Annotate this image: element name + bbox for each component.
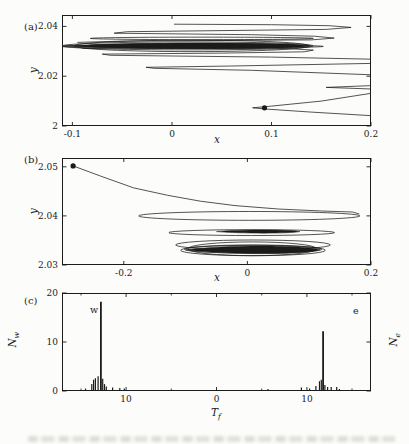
- west-annotation: w: [90, 305, 98, 315]
- tick-label: 2.03: [38, 260, 58, 270]
- tick-label: 10: [301, 394, 313, 404]
- panel-a-plot-area: [61, 24, 378, 116]
- tf-label-main: T: [211, 406, 218, 418]
- tick-label: 2: [52, 121, 58, 131]
- panel-c-xlabel: Tf: [211, 407, 221, 421]
- tick-label: 20: [47, 288, 59, 298]
- tick-label: 0: [52, 386, 58, 396]
- nw-label-main: N: [6, 338, 18, 347]
- ne-label-main: N: [387, 337, 399, 346]
- panel-a-box: [63, 16, 371, 126]
- panel-b-plot-area: [71, 163, 360, 255]
- panel-a-ylabel: y: [28, 67, 39, 73]
- tick-label: 0: [169, 129, 175, 139]
- tf-label-sub: f: [218, 412, 221, 421]
- nw-label-sub: w: [12, 332, 21, 338]
- attractor-loop: [90, 37, 313, 39]
- page-caption-artifact: [28, 436, 396, 442]
- ne-label-sub: e: [393, 333, 402, 337]
- attractor-dense-band: [217, 230, 300, 233]
- tick-label: 2.04: [38, 211, 58, 221]
- figure: -0.100.10.222.022.04-0.200.22.032.042.05…: [0, 0, 409, 444]
- tick-label: 10: [47, 337, 59, 347]
- tick-label: 2.05: [38, 162, 58, 172]
- start-point-marker: [262, 105, 267, 110]
- panel-b-label: (b): [24, 155, 38, 165]
- trajectory-path: [73, 166, 359, 214]
- panel-a-xlabel: x: [214, 134, 220, 145]
- tick-label: 0.2: [364, 268, 378, 278]
- trajectory-path: [326, 85, 377, 89]
- attractor-loop: [139, 211, 360, 220]
- panel-c-ylabel-west: Nw: [7, 332, 21, 348]
- east-annotation: e: [353, 306, 359, 316]
- tick-label: 10: [120, 394, 132, 404]
- panel-a-label: (a): [24, 22, 38, 32]
- tick-label: 0.1: [264, 129, 278, 139]
- start-point-marker: [71, 163, 76, 168]
- panel-c-ylabel-east: Ne: [388, 333, 402, 347]
- panel-b-xlabel: x: [214, 272, 220, 283]
- tick-label: 0.2: [364, 129, 378, 139]
- tick-label: 0: [245, 268, 251, 278]
- panel-b-ylabel: y: [28, 208, 39, 214]
- panel-c-box: [63, 294, 371, 391]
- tick-label: 2.02: [38, 71, 58, 81]
- phase-plots-and-histogram-canvas: -0.100.10.222.022.04-0.200.22.032.042.05…: [0, 0, 409, 444]
- trajectory-path: [146, 63, 377, 75]
- tick-label: 0: [214, 394, 220, 404]
- tick-label: -0.1: [64, 129, 81, 139]
- panel-c-plot-area: [86, 302, 340, 391]
- tick-label: 2.04: [38, 21, 58, 31]
- trajectory-path: [253, 92, 377, 116]
- tick-label: -0.2: [115, 268, 132, 278]
- panel-c-label: (c): [24, 296, 37, 306]
